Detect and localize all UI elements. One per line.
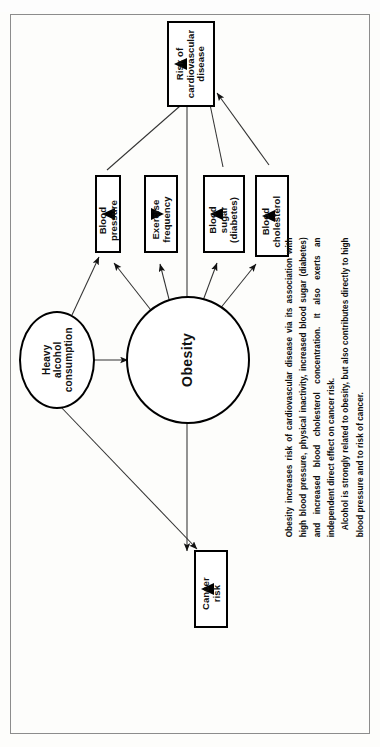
node-heavy-alcohol[interactable]: Heavy alcohol consumption [19,311,95,409]
node-exercise-frequency[interactable]: Exercise frequency [144,175,178,253]
node-cancer-risk[interactable]: Cancer risk [194,550,228,628]
node-obesity[interactable]: Obesity [126,296,250,424]
figure-page: ...AND ALCOHOL ON HEALTH RISK [0,0,380,747]
caption-paragraph-1: Obesity increases risk of cardiovascular… [283,237,339,537]
node-blood-pressure[interactable]: Blood pressure [95,175,121,253]
clipped-heading-strip: ...AND ALCOHOL ON HEALTH RISK [0,0,380,12]
node-heavy-alcohol-label: Heavy alcohol consumption [40,328,74,393]
node-blood-sugar[interactable]: Blood sugar (diabetes) [203,175,245,253]
caption-paragraph-2: Alcohol is strongly related to obesity, … [339,237,367,537]
caption-block: Obesity increases risk of cardiovascular… [283,15,369,733]
node-exercise-frequency-label: Exercise frequency [150,197,171,243]
node-blood-pressure-label: Blood pressure [97,201,118,242]
node-obesity-label: Obesity [180,333,196,387]
node-blood-sugar-label: Blood sugar (diabetes) [208,197,240,243]
edge-alcohol-blood-pressure [72,257,99,315]
node-risk-cvd-label: Risk of cardiovascular disease [175,30,207,98]
node-cancer-risk-label: Cancer risk [200,578,221,611]
edge-alcohol-cancer-risk [59,405,197,549]
node-blood-cholesterol-label: Blood cholesterol [261,196,282,248]
diagram-frame: Risk of cardiovascular disease Blood pre… [10,14,370,734]
edge-blood-cholesterol-risk-cvd [217,93,269,165]
edge-obesity-blood-pressure [114,263,154,314]
node-risk-cvd[interactable]: Risk of cardiovascular disease [167,21,215,107]
clipped-heading-text: ...AND ALCOHOL ON HEALTH RISK [44,0,188,2]
